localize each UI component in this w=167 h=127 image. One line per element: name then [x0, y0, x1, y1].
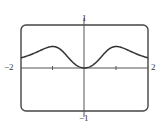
y-min-label: −1 [79, 114, 89, 123]
x-min-label: −2 [4, 63, 14, 72]
y-max-label: 1 [82, 14, 87, 23]
x-max-label: 2 [151, 63, 156, 72]
